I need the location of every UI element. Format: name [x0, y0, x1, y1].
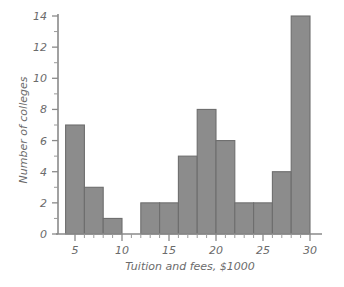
histogram-bar — [160, 203, 179, 234]
x-axis-title: Tuition and fees, $1000 — [125, 260, 255, 273]
y-tick-label: 4 — [40, 166, 47, 179]
histogram-bar — [272, 172, 291, 234]
histogram-canvas: 02468101214 51015202530 Tuition and fees… — [0, 0, 344, 287]
y-tick-label: 6 — [40, 135, 47, 148]
histogram-bar — [141, 203, 160, 234]
y-tick-label: 14 — [33, 10, 47, 23]
histogram-bar — [84, 187, 103, 234]
histogram-bar — [291, 16, 310, 234]
x-tick-label: 20 — [209, 244, 223, 257]
y-tick-label: 8 — [40, 103, 47, 116]
histogram-figure: 02468101214 51015202530 Tuition and fees… — [0, 0, 344, 287]
histogram-bar — [235, 203, 254, 234]
y-tick-label: 2 — [40, 197, 47, 210]
y-tick-label: 0 — [40, 228, 47, 241]
histogram-bar — [216, 141, 235, 234]
x-tick-label: 10 — [115, 244, 129, 257]
histogram-bar — [103, 218, 122, 234]
y-tick-label: 10 — [33, 72, 47, 85]
histogram-bar — [197, 109, 216, 234]
y-tick-label: 12 — [33, 41, 47, 54]
y-axis-title: Number of colleges — [17, 76, 30, 183]
x-tick-label: 5 — [72, 244, 79, 257]
histogram-bar — [66, 125, 85, 234]
x-tick-label: 15 — [162, 244, 176, 257]
x-tick-label: 30 — [303, 244, 317, 257]
histogram-bar — [178, 156, 197, 234]
histogram-bar — [254, 203, 273, 234]
x-tick-label: 25 — [256, 244, 270, 257]
